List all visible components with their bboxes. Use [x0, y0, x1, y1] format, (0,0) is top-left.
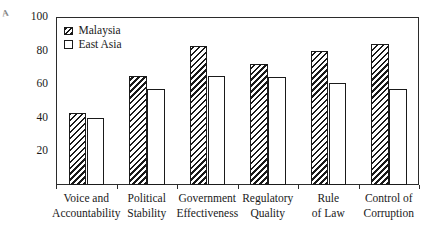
- y-tick-label: 80: [20, 45, 48, 57]
- x-category-label-5: Control ofCorruption: [353, 191, 426, 220]
- legend-label-east-asia: East Asia: [79, 38, 122, 52]
- bar-malaysia-2: [190, 46, 208, 185]
- legend-swatch-hatched-icon: [64, 27, 73, 36]
- y-tick-label: 20: [20, 145, 48, 157]
- x-axis-category-labels: Voice andAccountabilityPoliticalStabilit…: [56, 191, 419, 237]
- legend-swatch-white-icon: [64, 40, 73, 49]
- bar-malaysia-4: [311, 51, 329, 185]
- x-tick-mark: [177, 185, 178, 189]
- x-tick-mark: [419, 185, 420, 189]
- x-category-label-line: Control of: [353, 191, 426, 206]
- y-tick-label: 60: [20, 78, 48, 90]
- x-category-label-line: Corruption: [353, 206, 426, 221]
- x-tick-mark: [56, 185, 57, 189]
- x-tick-mark: [117, 185, 118, 189]
- chart-figure: A 20406080100 Malaysia East Asia Voice a…: [0, 0, 444, 246]
- x-tick-mark: [298, 185, 299, 189]
- bar-east-asia-5: [389, 89, 407, 185]
- bar-east-asia-0: [87, 118, 105, 185]
- x-tick-mark: [238, 185, 239, 189]
- legend-item-malaysia: Malaysia: [64, 24, 122, 38]
- y-tick-label: 100: [20, 11, 48, 23]
- y-tick-label: 40: [20, 112, 48, 124]
- legend-label-malaysia: Malaysia: [79, 24, 121, 38]
- bar-east-asia-3: [268, 77, 286, 185]
- bar-malaysia-3: [250, 64, 268, 185]
- chart-legend: Malaysia East Asia: [64, 24, 122, 51]
- bar-malaysia-1: [129, 76, 147, 185]
- bar-east-asia-4: [329, 83, 347, 185]
- bar-east-asia-2: [208, 76, 226, 185]
- x-tick-mark: [359, 185, 360, 189]
- bar-malaysia-5: [371, 44, 389, 185]
- legend-item-east-asia: East Asia: [64, 38, 122, 52]
- bar-malaysia-0: [69, 113, 87, 185]
- page-corner-mark: A: [1, 8, 9, 19]
- bar-east-asia-1: [147, 89, 165, 185]
